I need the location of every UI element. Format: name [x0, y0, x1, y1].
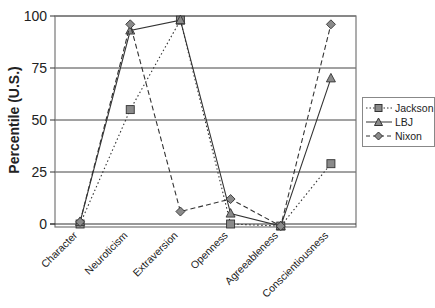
triangle-marker-icon: [226, 209, 235, 218]
legend-label: Nixon: [395, 130, 422, 142]
gridlines: [55, 16, 356, 172]
series-line: [80, 20, 331, 226]
y-tick-label: 25: [31, 164, 47, 180]
legend-item-nixon: Nixon: [366, 129, 434, 143]
y-axis-ticks: 0255075100: [24, 8, 55, 232]
triangle-marker-icon: [366, 117, 392, 127]
x-tick-label: Extraversion: [130, 229, 180, 279]
triangle-marker-icon: [326, 73, 335, 82]
legend-label: LBJ: [395, 116, 413, 128]
square-marker-icon: [366, 103, 392, 113]
x-tick-label: Character: [38, 229, 79, 270]
diamond-marker-icon: [366, 131, 392, 141]
legend: Jackson LBJ Nixon: [362, 97, 435, 147]
square-marker-icon: [327, 160, 335, 168]
series-line: [80, 24, 331, 226]
x-axis-labels: CharacterNeuroticismExtraversionOpenness…: [38, 229, 330, 300]
data-series: [76, 15, 336, 230]
diamond-marker-icon: [176, 207, 185, 216]
diamond-marker-icon: [126, 20, 135, 29]
square-marker-icon: [126, 106, 134, 114]
legend-item-jackson: Jackson: [366, 101, 434, 115]
y-tick-label: 100: [24, 8, 48, 24]
plot-border: [55, 16, 356, 227]
y-axis-title-text: Percentile (U.S.): [6, 60, 22, 180]
square-marker-icon: [227, 220, 235, 228]
series-nixon: [76, 20, 336, 231]
y-tick-label: 75: [31, 60, 47, 76]
plot-frame: [50, 16, 356, 227]
series-jackson: [76, 16, 335, 230]
legend-item-lbj: LBJ: [366, 115, 434, 129]
y-tick-label: 0: [39, 216, 47, 232]
legend-label: Jackson: [395, 102, 434, 114]
y-tick-label: 50: [31, 112, 47, 128]
x-tick-label: Neuroticism: [82, 229, 130, 277]
x-tick-label: Openness: [188, 229, 230, 271]
diamond-marker-icon: [326, 20, 335, 29]
